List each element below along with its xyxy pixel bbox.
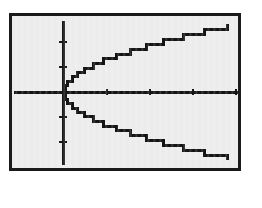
- screenshot-root: [0, 0, 262, 208]
- calculator-screen-frame: [9, 13, 241, 171]
- parabola-lower-branch: [63, 92, 227, 160]
- parabola-upper-branch: [63, 24, 227, 92]
- axes-group: [14, 21, 238, 165]
- graph-plot-area[interactable]: [12, 16, 238, 168]
- graph-svg: [12, 16, 238, 168]
